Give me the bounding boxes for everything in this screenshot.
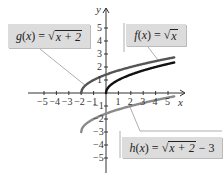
x-tick-label: 5	[165, 97, 170, 107]
x-tick-label: −2	[74, 97, 85, 107]
label-g: g(x) = √x + 2	[8, 24, 90, 48]
x-tick-label: −5	[37, 97, 48, 107]
y-tick-label: 5	[97, 23, 102, 33]
y-tick-label: −2	[93, 114, 104, 124]
x-tick-label: 1	[115, 97, 120, 107]
f-curve	[106, 63, 174, 93]
h-leader-line	[130, 107, 222, 131]
y-tick-label: 3	[97, 49, 102, 59]
x-tick-label: 4	[153, 97, 158, 107]
h-radicand: x + 2	[168, 141, 195, 154]
x-tick-label: 2	[128, 97, 133, 107]
y-tick-label: −4	[93, 140, 104, 150]
x-tick-label: 3	[140, 97, 145, 107]
y-tick-label: −3	[93, 127, 104, 137]
x-tick-label: −4	[49, 97, 60, 107]
y-axis-label: y	[96, 4, 101, 15]
f-leader-line	[148, 47, 158, 60]
y-tick-label: 2	[97, 62, 102, 72]
y-tick-label: −5	[93, 153, 104, 163]
g-radicand: x + 2	[55, 30, 82, 43]
y-tick-label: −1	[93, 101, 104, 111]
label-h: h(x) = √x + 2 − 3	[122, 137, 222, 158]
g-leader-line	[40, 49, 86, 86]
y-tick-label: 1	[97, 75, 102, 85]
x-tick-label: −3	[62, 97, 73, 107]
y-tick-label: 4	[97, 36, 102, 46]
f-radicand: x	[170, 29, 177, 42]
x-axis-label: x	[178, 97, 183, 108]
label-f: f(x) = √x	[126, 24, 186, 46]
